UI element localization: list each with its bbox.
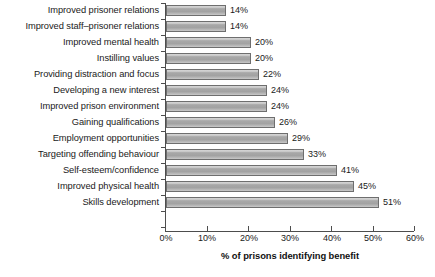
bar bbox=[166, 21, 226, 32]
bar-value-label: 20% bbox=[255, 37, 273, 48]
category-label: Gaining qualifications bbox=[0, 117, 159, 128]
x-axis-tick bbox=[414, 226, 415, 231]
category-label: Skills development bbox=[0, 197, 159, 208]
bar-value-label: 22% bbox=[263, 69, 281, 80]
bar-value-label: 14% bbox=[230, 21, 248, 32]
bar bbox=[166, 117, 275, 128]
bar bbox=[166, 133, 288, 144]
category-label: Self-esteem/confidence bbox=[0, 165, 159, 176]
bar-value-label: 24% bbox=[271, 101, 289, 112]
y-axis-tick bbox=[161, 179, 165, 180]
category-label: Developing a new interest bbox=[0, 85, 159, 96]
y-axis-tick bbox=[161, 83, 165, 84]
x-axis-title: % of prisons identifying benefit bbox=[165, 250, 415, 261]
bar bbox=[166, 37, 251, 48]
y-axis-tick bbox=[161, 115, 165, 116]
bar-chart: Improved prisoner relations Improved sta… bbox=[0, 0, 435, 277]
category-label: Targeting offending behaviour bbox=[0, 149, 159, 160]
bar bbox=[166, 5, 226, 16]
bar bbox=[166, 69, 259, 80]
y-axis-tick bbox=[161, 3, 165, 4]
category-label: Improved physical health bbox=[0, 181, 159, 192]
category-label: Instilling values bbox=[0, 53, 159, 64]
y-axis-tick bbox=[161, 99, 165, 100]
x-axis-tick-label: 10% bbox=[187, 233, 227, 244]
category-label: Improved prison environment bbox=[0, 101, 159, 112]
bar-value-label: 29% bbox=[292, 133, 310, 144]
y-axis-tick bbox=[161, 163, 165, 164]
x-axis-tick bbox=[373, 226, 374, 231]
bar bbox=[166, 149, 304, 160]
x-axis-tick-label: 20% bbox=[229, 233, 269, 244]
category-label: Providing distraction and focus bbox=[0, 69, 159, 80]
plot-area: Improved prisoner relations Improved sta… bbox=[0, 0, 435, 277]
x-axis-tick bbox=[331, 226, 332, 231]
x-axis-tick bbox=[165, 226, 166, 231]
bar-value-label: 45% bbox=[358, 181, 376, 192]
bar bbox=[166, 197, 379, 208]
y-axis-tick bbox=[161, 211, 165, 212]
y-axis-tick bbox=[161, 131, 165, 132]
bar-value-label: 51% bbox=[383, 197, 401, 208]
bar-value-label: 14% bbox=[230, 5, 248, 16]
bar bbox=[166, 165, 337, 176]
x-axis-tick-label: 30% bbox=[270, 233, 310, 244]
y-axis-tick bbox=[161, 67, 165, 68]
bar-value-label: 33% bbox=[308, 149, 326, 160]
category-label: Improved staff–prisoner relations bbox=[0, 21, 159, 32]
bar bbox=[166, 101, 267, 112]
x-axis-tick bbox=[248, 226, 249, 231]
y-axis-tick bbox=[161, 35, 165, 36]
y-axis-tick bbox=[161, 147, 165, 148]
category-label: Employment opportunities bbox=[0, 133, 159, 144]
bar bbox=[166, 53, 251, 64]
x-axis-tick bbox=[290, 226, 291, 231]
bar-value-label: 26% bbox=[279, 117, 297, 128]
x-axis-tick-label: 60% bbox=[395, 233, 435, 244]
bar-value-label: 24% bbox=[271, 85, 289, 96]
y-axis-tick bbox=[161, 51, 165, 52]
y-axis-tick bbox=[161, 19, 165, 20]
x-axis-tick-label: 50% bbox=[353, 233, 393, 244]
bar bbox=[166, 85, 267, 96]
category-label: Improved mental health bbox=[0, 37, 159, 48]
bar bbox=[166, 181, 354, 192]
bar-value-label: 20% bbox=[255, 53, 273, 64]
category-label: Improved prisoner relations bbox=[0, 5, 159, 16]
x-axis-tick-label: 0% bbox=[146, 233, 186, 244]
bar-value-label: 41% bbox=[341, 165, 359, 176]
x-axis-line bbox=[165, 231, 414, 232]
x-axis-tick bbox=[207, 226, 208, 231]
y-axis-tick bbox=[161, 195, 165, 196]
x-axis-tick-label: 40% bbox=[312, 233, 352, 244]
